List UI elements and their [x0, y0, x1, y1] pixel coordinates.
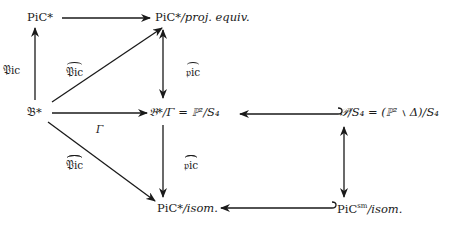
node-pic-proj-main: PiC* [155, 10, 181, 24]
node-pic-proj-suffix: /proj. equiv. [181, 10, 250, 24]
node-b-quotient: 𝔅*/Γ = ℙ²/S₄ [149, 107, 220, 119]
hat-accent: 𝔓ic [66, 67, 83, 78]
label-pic-hat-diagonal: 𝔓ic [66, 67, 83, 78]
node-p-quotient: 𝒫/S₄ = (ℙ² ∖ Δ)/S₄ [340, 107, 439, 119]
hat-accent: 𝔭ic [186, 67, 200, 78]
label-gamma: Γ [96, 124, 103, 135]
arrow-picsm-to-isom [221, 202, 336, 208]
doublehat-accent: 𝔓ic [66, 160, 83, 171]
node-pic-sm-main: PiC [337, 202, 357, 216]
node-pic-star: PiC* [27, 12, 53, 24]
node-pic-isom-suffix: /isom. [183, 201, 218, 215]
doublehat-accent: 𝔭ic [184, 160, 198, 171]
node-pic-isom-main: PiC* [157, 201, 183, 215]
node-pic-proj-equiv: PiC*/proj. equiv. [155, 12, 250, 24]
arrow-pquot-to-bquot [240, 108, 342, 114]
label-pic-hat-vertical: 𝔭ic [186, 67, 200, 78]
node-pic-sm-suffix: /isom. [367, 202, 402, 216]
node-pic-isom: PiC*/isom. [157, 203, 218, 215]
node-b-star: 𝔅* [27, 107, 42, 119]
node-pic-sm: PiCsm/isom. [337, 203, 402, 215]
label-pic-vertical: 𝔓ic [3, 65, 20, 76]
label-pic-doublehat-vertical: 𝔭ic [184, 160, 198, 171]
label-pic-doublehat-diagonal: 𝔓ic [66, 160, 83, 171]
node-pic-sm-sup: sm [357, 202, 367, 210]
